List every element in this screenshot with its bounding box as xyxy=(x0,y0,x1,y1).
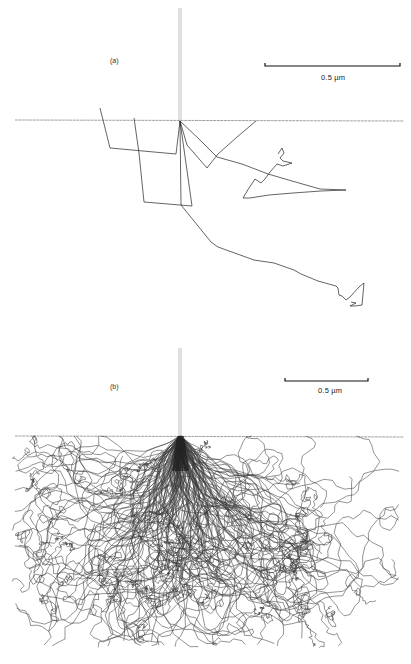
electron-trajectory xyxy=(180,121,364,306)
electron-trajectories xyxy=(12,436,399,648)
scale-bar xyxy=(265,63,400,66)
sample-surface-line xyxy=(15,120,404,121)
scale-bar-label-b: 0.5 µm xyxy=(318,386,342,395)
trajectory-plot-a xyxy=(0,0,411,330)
trajectory-plot-b xyxy=(0,330,411,664)
panel-label-a: (a) xyxy=(110,57,119,64)
scale-bar-label-a: 0.5 µm xyxy=(321,73,345,82)
scale-bar xyxy=(285,378,368,381)
panel-b-many-trajectories: (b) 0.5 µm xyxy=(0,330,411,664)
electron-trajectory xyxy=(180,121,346,198)
electron-trajectory xyxy=(180,121,256,168)
panel-label-b: (b) xyxy=(110,383,119,390)
electron-trajectory xyxy=(100,108,180,154)
sample-surface-line xyxy=(15,436,404,437)
panel-a-single-trajectory: (a) 0.5 µm xyxy=(0,0,411,330)
